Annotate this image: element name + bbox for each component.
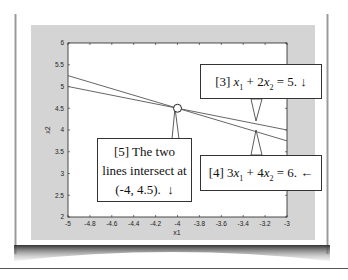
c3-rhs: = 5. <box>277 74 297 89</box>
y-tick-label: 2.5 <box>55 192 64 199</box>
x-tick-label: -4.6 <box>106 220 118 227</box>
x-tick-label: -5 <box>65 220 71 227</box>
y-tick-label: 5.5 <box>55 61 64 68</box>
x-tick-label: -3.6 <box>216 220 228 227</box>
x-tick-label: -3.4 <box>238 220 250 227</box>
y-tick-label: 3.5 <box>55 148 64 155</box>
x-tick-label: -3 <box>284 220 290 227</box>
y-tick-label: 6 <box>60 39 64 46</box>
c5-line1: [5] The two <box>98 142 191 161</box>
callout-equation-3: [3] x1 + 2x2 = 5. ↓ <box>200 64 322 99</box>
c4-rhs: = 6. <box>277 165 297 180</box>
y-tick-label: 5 <box>60 83 64 90</box>
y-axis-label: x2 <box>44 126 51 134</box>
left-arrow-icon: ← <box>300 165 313 180</box>
y-tick-label: 4 <box>60 126 64 133</box>
x-tick-label: -4.4 <box>128 220 140 227</box>
callout-intersection: [5] The two lines intersect at (-4, 4.5)… <box>97 138 192 202</box>
c5-line2: lines intersect at <box>98 161 191 180</box>
c4-sub2: 2 <box>269 174 273 183</box>
y-tick-label: 4.5 <box>55 105 64 112</box>
c4-sub1: 1 <box>239 174 243 183</box>
intersection-marker <box>174 104 182 112</box>
c3-sub2: 2 <box>269 83 273 92</box>
c3-label: [3] <box>215 74 230 89</box>
c5-line3-wrap: (-4, 4.5). ↓ <box>98 180 191 199</box>
c5-line3: (-4, 4.5). <box>115 182 161 197</box>
x-tick-label: -4.2 <box>150 220 162 227</box>
x-tick-label: -4.8 <box>84 220 96 227</box>
x-axis-label: x1 <box>173 229 181 236</box>
y-tick-label: 2 <box>60 213 64 220</box>
c3-sub1: 1 <box>239 83 243 92</box>
c4-label: [4] <box>209 165 224 180</box>
x-tick-label: -3.8 <box>194 220 206 227</box>
x-tick-label: -3.2 <box>259 220 271 227</box>
c4-op1: + 4 <box>247 165 264 180</box>
c3-op1: + 2 <box>247 74 264 89</box>
x-tick-label: -4 <box>175 220 181 227</box>
y-tick-label: 3 <box>60 170 64 177</box>
callout-equation-4: [4] 3x1 + 4x2 = 6. ← <box>200 155 322 191</box>
down-arrow-icon: ↓ <box>167 182 174 197</box>
down-arrow-icon: ↓ <box>300 74 307 89</box>
